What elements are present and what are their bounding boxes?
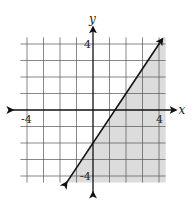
- x-tick-label: 4: [156, 113, 163, 126]
- x-axis-label: x: [179, 103, 186, 117]
- x-tick-label: -4: [21, 113, 32, 126]
- y-tick-label: 4: [84, 38, 91, 51]
- y-axis-label: y: [88, 12, 96, 26]
- inequality-graph: -444-4xy: [0, 0, 193, 202]
- y-tick-label: -4: [80, 170, 91, 183]
